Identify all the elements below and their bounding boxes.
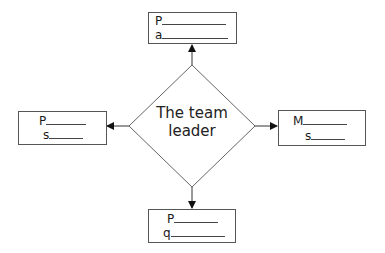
blank-field[interactable] bbox=[162, 14, 226, 25]
blank-field[interactable] bbox=[303, 114, 347, 125]
center-label: The team leader bbox=[142, 104, 242, 140]
box-bottom-letter1: P bbox=[167, 212, 174, 226]
box-bottom: P q bbox=[148, 209, 236, 243]
blank-field[interactable] bbox=[174, 212, 218, 223]
box-left: P s bbox=[18, 111, 107, 145]
box-top-letter2: a bbox=[155, 28, 162, 42]
box-right-letter1: M bbox=[293, 114, 303, 128]
blank-field[interactable] bbox=[171, 226, 225, 237]
box-bottom-letter2: q bbox=[163, 226, 171, 240]
box-top: P a bbox=[148, 12, 237, 44]
blank-field[interactable] bbox=[46, 114, 86, 125]
blank-field[interactable] bbox=[49, 128, 83, 139]
blank-field[interactable] bbox=[311, 129, 345, 140]
center-label-line1: The team bbox=[142, 104, 242, 122]
box-right: M s bbox=[278, 110, 366, 146]
box-top-letter1: P bbox=[155, 14, 162, 28]
center-label-line2: leader bbox=[142, 122, 242, 140]
box-left-letter1: P bbox=[39, 114, 46, 128]
blank-field[interactable] bbox=[162, 28, 228, 39]
